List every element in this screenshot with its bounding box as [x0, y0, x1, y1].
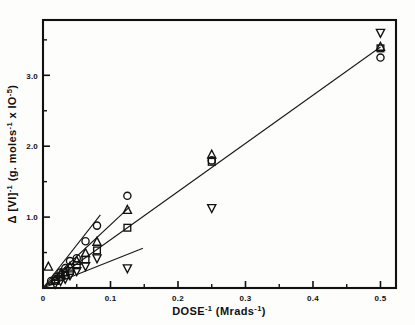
y-title-close: )	[6, 85, 18, 89]
y-title-mid: x IO	[6, 96, 18, 122]
data-point-circle	[124, 192, 131, 199]
x-title-exp2: -1	[254, 304, 261, 313]
data-point-triangle-up	[93, 237, 101, 245]
x-tick-label: 0.5	[375, 294, 387, 303]
y-title-exp1: -1	[5, 185, 14, 192]
y-title-exp2: -1	[5, 122, 14, 129]
plot-frame	[43, 20, 396, 288]
y-title-bracket: [VI]	[6, 192, 18, 215]
x-tick-label: 0.4	[307, 294, 319, 303]
data-point-triangle-down	[208, 205, 216, 213]
x-title-exp1: -1	[205, 304, 212, 313]
x-axis-tick-labels: 00.10.20.30.40.5	[41, 294, 387, 303]
y-title-delta: Δ	[6, 215, 18, 223]
x-axis-title: DOSE-1 (Mrads-1)	[172, 304, 266, 317]
data-point-triangle-up	[81, 249, 89, 257]
y-tick-label: 3.0	[26, 72, 38, 81]
data-point-circle	[82, 238, 89, 245]
svg-text:DOSE-1 (Mrads-1): DOSE-1 (Mrads-1)	[172, 304, 266, 317]
y-axis-title: Δ [VI]-1 (g. moles-1 x IO-5)	[5, 85, 18, 224]
y-axis-tick-labels: 1.02.03.0	[26, 72, 38, 223]
y-tick-label: 2.0	[26, 142, 38, 151]
data-point-circle	[377, 54, 384, 61]
x-tick-label: 0.3	[240, 294, 252, 303]
svg-text:Δ [VI]-1 (g. moles-1 x IO-5): Δ [VI]-1 (g. moles-1 x IO-5)	[5, 85, 18, 224]
data-point-triangle-down	[93, 255, 101, 263]
data-point-circle	[93, 222, 100, 229]
figure-panel: 00.10.20.30.40.5 1.02.03.0 DOSE-1 (Mrads…	[0, 0, 415, 325]
x-title-main: DOSE	[172, 305, 205, 317]
x-title-unit-close: )	[262, 305, 266, 317]
data-point-triangle-down	[123, 265, 131, 273]
y-title-exp3: -5	[5, 89, 14, 96]
y-title-unit: (g. moles	[6, 129, 18, 184]
data-markers	[44, 29, 384, 288]
x-tick-label: 0.2	[172, 294, 184, 303]
x-tick-label: 0	[41, 294, 46, 303]
x-tick-label: 0.1	[105, 294, 117, 303]
data-point-triangle-up	[44, 262, 52, 270]
scatter-plot: 00.10.20.30.40.5 1.02.03.0 DOSE-1 (Mrads…	[0, 0, 415, 325]
data-point-triangle-down	[376, 29, 384, 37]
y-tick-label: 1.0	[26, 213, 38, 222]
x-title-unit-open: (Mrads	[212, 305, 254, 317]
